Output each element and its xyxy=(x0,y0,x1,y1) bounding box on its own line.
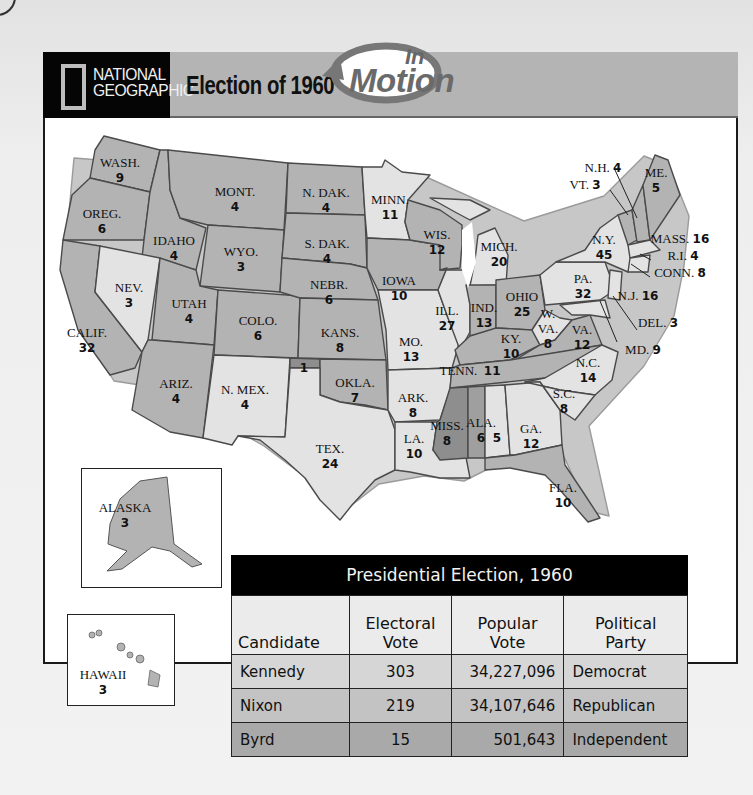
state-label-wis: WIS.12 xyxy=(423,227,450,258)
state-label-ny: N.Y.45 xyxy=(592,232,616,263)
table-row: Kennedy 303 34,227,096 Democrat xyxy=(232,655,688,689)
cell-candidate: Kennedy xyxy=(232,655,350,689)
state-label-ill: ILL.27 xyxy=(435,303,458,334)
state-label-kans: KANS.8 xyxy=(321,325,360,356)
state-label-wash: WASH.9 xyxy=(100,155,140,186)
col-header-party: Political Party xyxy=(564,596,688,655)
state-label-mont: MONT.4 xyxy=(215,184,256,215)
cell-electoral: 219 xyxy=(350,689,452,723)
state-label-vt: VT. 3 xyxy=(569,177,600,193)
state-label-sc: S.C.8 xyxy=(553,386,575,417)
col-header-electoral: Electoral Vote xyxy=(350,596,452,655)
state-label-fla: FLA.10 xyxy=(549,480,577,511)
state-label-me: ME.5 xyxy=(645,165,668,196)
state-label-nj: N.J. 16 xyxy=(618,288,659,304)
state-label-wyo: WYO.3 xyxy=(224,244,258,275)
state-label-nh: N.H. 4 xyxy=(585,160,622,176)
cell-candidate: Nixon xyxy=(232,689,350,723)
state-label-tenn: TENN. 11 xyxy=(439,363,500,379)
state-label-ndak: N. DAK.4 xyxy=(302,185,349,216)
table-row: Byrd 15 501,643 Independent xyxy=(232,723,688,757)
cell-popular: 501,643 xyxy=(451,723,564,757)
state-label-tex: TEX.24 xyxy=(316,441,345,472)
state-label-nebr: NEBR.6 xyxy=(310,277,348,308)
cell-candidate: Byrd xyxy=(232,723,350,757)
col-header-popular: Popular Vote xyxy=(451,596,564,655)
table-row: Nixon 219 34,107,646 Republican xyxy=(232,689,688,723)
state-label-nev: NEV.3 xyxy=(115,280,143,311)
cell-party: Independent xyxy=(564,723,688,757)
state-label-nmex: N. MEX.4 xyxy=(221,382,269,413)
state-label-okla-byrd: 1 xyxy=(300,361,308,376)
state-label-mo: MO.13 xyxy=(399,334,423,365)
state-label-oreg: OREG.6 xyxy=(83,206,122,237)
state-label-ky: KY.10 xyxy=(501,331,521,362)
cell-popular: 34,227,096 xyxy=(451,655,564,689)
table-header-row: Candidate Electoral Vote Popular Vote Po… xyxy=(232,596,688,655)
state-label-wva: W. VA.8 xyxy=(533,306,563,352)
state-label-ga: GA.12 xyxy=(520,421,542,452)
state-label-ri: R.I. 4 xyxy=(667,248,698,264)
state-label-ala-byrd: ALA.6 xyxy=(466,415,496,446)
cell-electoral: 15 xyxy=(350,723,452,757)
state-label-iowa: IOWA10 xyxy=(382,273,416,304)
state-label-mich: MICH.20 xyxy=(480,239,517,270)
state-label-okla: OKLA.7 xyxy=(335,375,374,406)
state-label-calif: CALIF.32 xyxy=(67,325,107,356)
state-label-pa: PA.32 xyxy=(574,271,593,302)
cell-party: Republican xyxy=(564,689,688,723)
state-label-alaska: ALASKA3 xyxy=(99,500,152,531)
state-label-nc: N.C.14 xyxy=(576,355,601,386)
state-label-utah: UTAH4 xyxy=(171,296,206,327)
state-label-minn: MINN.11 xyxy=(371,192,409,223)
state-label-hawaii: HAWAII3 xyxy=(80,667,127,698)
cell-party: Democrat xyxy=(564,655,688,689)
state-label-idaho: IDAHO4 xyxy=(153,233,195,264)
state-label-la: LA.10 xyxy=(404,431,425,462)
state-label-md: MD. 9 xyxy=(625,342,661,358)
state-label-miss: MISS.8 xyxy=(430,418,464,449)
state-label-ind: IND.13 xyxy=(471,300,497,331)
state-label-del: DEL. 3 xyxy=(638,315,678,331)
state-label-mass: MASS. 16 xyxy=(651,231,710,247)
state-label-ala-kennedy: 5 xyxy=(493,430,501,446)
cell-electoral: 303 xyxy=(350,655,452,689)
state-label-colo: COLO.6 xyxy=(239,313,278,344)
state-label-ariz: ARIZ.4 xyxy=(159,376,193,407)
state-label-ark: ARK.8 xyxy=(398,390,429,421)
table-caption: Presidential Election, 1960 xyxy=(231,555,688,595)
state-label-va: VA.12 xyxy=(572,322,592,353)
cell-popular: 34,107,646 xyxy=(451,689,564,723)
state-label-conn: CONN. 8 xyxy=(654,265,706,281)
state-label-sdak: S. DAK.4 xyxy=(304,236,349,267)
col-header-candidate: Candidate xyxy=(232,596,350,655)
results-table: Presidential Election, 1960 Candidate El… xyxy=(231,555,688,757)
